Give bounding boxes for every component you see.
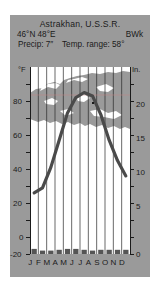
right-tick-label-5: 5 — [136, 203, 140, 211]
plot-canvas — [30, 67, 130, 254]
left-tick-label-40: 40 — [13, 166, 22, 174]
left-tick-label-60: 60 — [13, 132, 22, 140]
plot-area — [30, 67, 130, 254]
right-tick-mark — [130, 169, 134, 170]
right-tick-mark — [130, 118, 134, 119]
coordinates-label: 46°N 48°E — [17, 30, 55, 41]
month-label-sep: S — [93, 258, 101, 267]
header-title-row: Astrakhan, U.S.S.R. — [10, 19, 150, 30]
left-tick-mark — [26, 186, 30, 187]
month-label-jun: J — [68, 258, 76, 267]
right-tick-label-10: 10 — [136, 169, 145, 177]
right-tick-label-20: 20 — [136, 101, 145, 109]
climograph-card: Astrakhan, U.S.S.R. 46°N 48°E BWk Precip… — [10, 15, 150, 277]
left-tick-label-minus20: -20 — [10, 251, 22, 259]
climograph-page: Astrakhan, U.S.S.R. 46°N 48°E BWk Precip… — [0, 0, 160, 297]
left-tick-mark — [26, 152, 30, 153]
precipitation-total-label: Precip: 7″ — [18, 40, 53, 51]
month-label-mar: M — [43, 258, 51, 267]
month-label-apr: A — [51, 258, 59, 267]
left-axis-unit-label: °F — [18, 65, 26, 74]
right-tick-label-0: 0 — [136, 251, 140, 259]
right-tick-mark — [130, 101, 134, 102]
month-label-dec: D — [118, 258, 126, 267]
header-block: Astrakhan, U.S.S.R. 46°N 48°E BWk Precip… — [10, 19, 150, 51]
page-title: Astrakhan, U.S.S.R. — [10, 19, 150, 30]
header-stats-row: Precip: 7″ Temp. range: 58° — [10, 40, 150, 51]
left-axis-line — [30, 67, 31, 254]
right-tick-mark — [130, 186, 134, 187]
right-tick-mark — [130, 237, 134, 238]
precipitation-bars — [30, 67, 130, 254]
left-tick-label-0: 0 — [19, 234, 23, 242]
right-tick-label-15: 15 — [136, 135, 145, 143]
month-label-jan: J — [26, 258, 34, 267]
city-location-dot — [92, 102, 94, 104]
month-label-feb: F — [34, 258, 42, 267]
left-tick-mark — [26, 84, 30, 85]
month-label-jul: J — [76, 258, 84, 267]
month-label-aug: A — [84, 258, 92, 267]
month-label-nov: N — [109, 258, 117, 267]
right-tick-mark — [130, 84, 134, 85]
left-tick-mark — [26, 254, 30, 255]
right-tick-mark — [130, 152, 134, 153]
right-tick-mark — [130, 220, 134, 221]
month-label-oct: O — [101, 258, 109, 267]
left-tick-mark — [26, 135, 30, 136]
left-tick-label-80: 80 — [13, 98, 22, 106]
left-tick-mark — [26, 237, 30, 238]
month-label-may: M — [59, 258, 67, 267]
header-coords-row: 46°N 48°E BWk — [10, 30, 150, 41]
left-tick-mark — [26, 101, 30, 102]
left-tick-mark — [26, 203, 30, 204]
temperature-range-label: Temp. range: 58° — [62, 40, 124, 51]
left-tick-mark — [26, 169, 30, 170]
left-tick-mark — [26, 118, 30, 119]
right-axis-line — [130, 67, 131, 254]
right-tick-mark — [130, 203, 134, 204]
right-tick-mark — [130, 254, 134, 255]
climate-code-label: BWk — [126, 30, 143, 41]
right-tick-mark — [130, 135, 134, 136]
right-axis-unit-label: In. — [132, 65, 140, 74]
left-tick-label-20: 20 — [13, 200, 22, 208]
left-tick-mark — [26, 220, 30, 221]
